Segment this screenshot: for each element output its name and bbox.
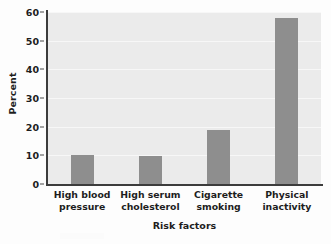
x-axis-category-label-line: inactivity	[254, 201, 320, 213]
y-axis-tick-mark	[40, 98, 44, 99]
x-axis-category-label-line: smoking	[186, 201, 252, 213]
y-axis-tick-label: 40	[26, 64, 39, 75]
x-axis-category-label-line: High serum	[120, 189, 180, 200]
plot-area	[48, 12, 321, 184]
x-axis-line	[46, 184, 323, 186]
x-axis-category-label-line: pressure	[49, 201, 115, 213]
x-axis-category-label-line: cholesterol	[117, 201, 183, 213]
y-axis-tick-mark	[40, 126, 44, 127]
x-axis-category-label: Physicalinactivity	[253, 189, 321, 219]
gridline	[48, 12, 321, 13]
x-axis-category-label-line: Physical	[265, 189, 308, 200]
x-axis-category-label: Cigarettesmoking	[185, 189, 253, 219]
y-axis-tick-labels: 0102030405060	[20, 0, 44, 186]
bar	[207, 130, 230, 184]
bar-chart-figure: Percent 0102030405060 High bloodpressure…	[0, 0, 331, 244]
y-axis-tick-label: 60	[26, 7, 39, 18]
x-axis-category-label-line: Cigarette	[194, 189, 243, 200]
y-axis-tick-label: 30	[26, 93, 39, 104]
y-axis-tick-label: 20	[26, 121, 39, 132]
x-axis-category-label: High serumcholesterol	[116, 189, 184, 219]
y-axis-title-text: Percent	[7, 72, 18, 114]
y-axis-tick-mark	[40, 69, 44, 70]
y-axis-tick-mark	[40, 12, 44, 13]
x-axis-category-labels: High bloodpressureHigh serumcholesterolC…	[48, 189, 321, 219]
y-axis-title: Percent	[2, 0, 22, 186]
bar	[139, 156, 162, 184]
x-axis-category-label: High bloodpressure	[48, 189, 116, 219]
y-axis-tick-mark	[40, 184, 44, 185]
x-axis-category-label-line: High blood	[54, 189, 111, 200]
y-axis-tick-label: 10	[26, 150, 39, 161]
bar	[71, 155, 94, 184]
bar	[275, 18, 298, 184]
x-axis-title: Risk factors	[48, 220, 321, 231]
y-axis-tick-mark	[40, 155, 44, 156]
y-axis-tick-label: 0	[32, 179, 39, 190]
y-axis-tick-label: 50	[26, 35, 39, 46]
y-axis-tick-mark	[40, 40, 44, 41]
scan-artifact	[60, 233, 104, 239]
